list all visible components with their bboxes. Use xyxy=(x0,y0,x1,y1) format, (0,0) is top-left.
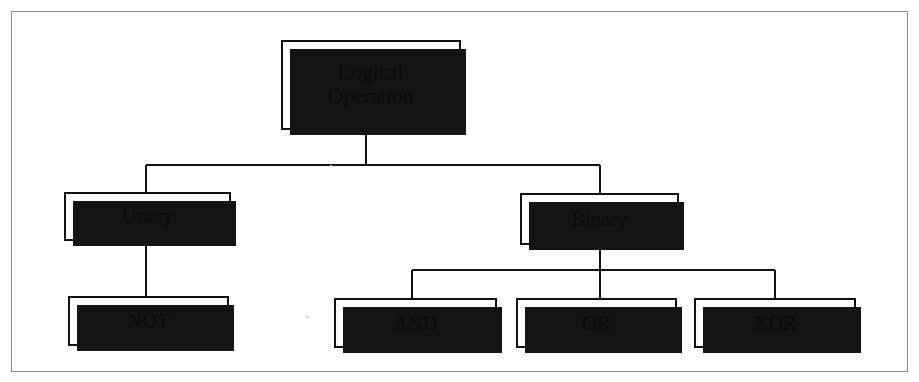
node-label: NOT xyxy=(128,310,170,332)
scan-speck xyxy=(306,316,309,318)
node-or[interactable]: OR xyxy=(516,298,677,348)
node-label: OR xyxy=(582,312,610,334)
node-unary[interactable]: Unary xyxy=(64,192,231,241)
node-xor[interactable]: XOR xyxy=(694,298,856,348)
node-label: XOR xyxy=(754,312,797,334)
node-binary[interactable]: Binary xyxy=(520,193,679,245)
node-logical-operation[interactable]: Logical Operation xyxy=(281,40,461,130)
node-label: Logical Operation xyxy=(328,61,414,108)
node-and[interactable]: AND xyxy=(334,298,497,348)
node-label: AND xyxy=(394,312,438,334)
node-label: Binary xyxy=(572,208,628,230)
node-label: Unary xyxy=(122,205,173,227)
diagram-canvas: Logical Operation Unary Binary NOT AND O… xyxy=(0,0,919,382)
node-not[interactable]: NOT xyxy=(68,296,229,346)
scan-speck xyxy=(330,165,332,167)
